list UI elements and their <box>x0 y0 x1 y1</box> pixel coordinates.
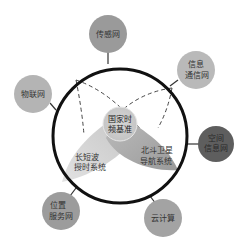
info-comm-label-line2: 通信网 <box>185 70 209 80</box>
center-node <box>103 107 137 141</box>
sensor-network-label: 传感网 <box>96 29 120 39</box>
connector-iot <box>50 103 56 110</box>
dashed-arc-4 <box>158 88 172 128</box>
long-short-wave-label-line1: 长短波 <box>75 152 99 162</box>
spatial-info-label-line1: 空间 <box>208 133 224 143</box>
center-label-line2: 频基准 <box>108 124 132 134</box>
connector-info-comm-network <box>170 80 178 86</box>
center-label-line1: 国家时 <box>108 114 132 124</box>
outer-node-iot: 物联网 <box>14 75 52 113</box>
outer-node-location-service-network: 位置 服务网 <box>42 192 80 230</box>
iot-label: 物联网 <box>21 89 45 99</box>
outer-node-cloud-computing: 云计算 <box>144 199 182 237</box>
outer-node-info-comm-network: 信息 通信网 <box>177 51 215 89</box>
long-short-wave-label-line2: 授时系统 <box>74 162 106 172</box>
time-frequency-diagram: 国家时 频基准 长短波 授时系统 北斗卫星 导航系统 传感网 信息 通信网 物联… <box>0 0 245 252</box>
dashed-arc-3 <box>76 80 84 135</box>
outer-node-spatial-info-network: 空间 信息网 <box>198 126 234 162</box>
beidou-label-line2: 导航系统 <box>140 156 172 166</box>
cloud-computing-label: 云计算 <box>151 213 175 223</box>
spatial-info-label-line2: 信息网 <box>204 143 228 153</box>
location-service-label-line2: 服务网 <box>49 211 73 221</box>
info-comm-label-line1: 信息 <box>188 59 204 69</box>
outer-node-sensor-network: 传感网 <box>89 15 127 53</box>
beidou-label-line1: 北斗卫星 <box>141 146 173 155</box>
location-service-label-line1: 位置 <box>50 200 66 210</box>
